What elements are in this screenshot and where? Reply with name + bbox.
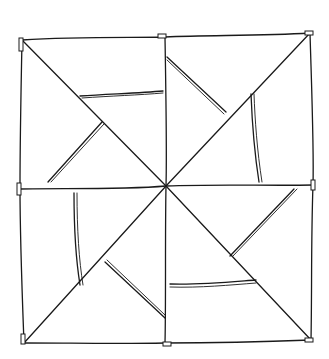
tr-inner-diagonal [167, 57, 226, 112]
diagonal-bottom-right [166, 186, 311, 340]
vertical-midline [165, 37, 166, 343]
bl-inner-diagonal-double [107, 260, 165, 315]
br-inner-diagonal-double [233, 189, 297, 256]
br-inner-diagonal [230, 189, 294, 256]
tab-bottom-left [21, 334, 25, 344]
diagonal-top-left [22, 40, 166, 186]
tr-inner-vertical-double [254, 94, 262, 182]
tab-bottom-right [305, 338, 313, 342]
tl-inner-triangle-double [51, 124, 104, 182]
diagonal-bottom-left [24, 186, 166, 343]
br-inner-horizontal [170, 280, 256, 284]
tab-right-middle [311, 180, 315, 190]
bl-inner-diagonal [105, 262, 165, 318]
tab-top-left [19, 38, 23, 51]
tab-top-right [305, 31, 313, 35]
diagonal-top-right [166, 33, 310, 186]
tl-inner-triangle [48, 122, 102, 182]
pinwheel-sketch [0, 0, 329, 359]
tab-bottom-middle [163, 342, 171, 346]
tr-inner-diagonal-double [167, 60, 224, 114]
tab-left-middle [17, 183, 21, 195]
tab-top-middle [158, 34, 166, 38]
